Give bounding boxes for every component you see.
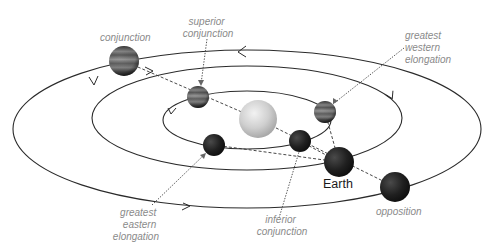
inner-planet-inferior-conjunction	[289, 130, 311, 152]
inner-planet-greatest-western-elongation	[314, 101, 336, 123]
planetary-configurations-diagram: conjunction superior conjunction greates…	[0, 0, 491, 243]
sun	[239, 100, 277, 138]
earth	[324, 147, 354, 177]
label-earth: Earth	[323, 177, 353, 191]
label-greatest-western-elongation: greatest western elongation	[405, 30, 452, 65]
label-superior-conjunction: superior conjunction	[183, 16, 234, 39]
label-conjunction: conjunction	[100, 32, 151, 43]
outer-planet-opposition	[380, 172, 410, 202]
label-inferior-conjunction: inferior conjunction	[257, 214, 308, 237]
inner-planet-greatest-eastern-elongation	[203, 134, 225, 156]
label-opposition: opposition	[376, 206, 422, 217]
inner-planet-superior-conjunction	[187, 86, 209, 108]
outer-planet-conjunction	[109, 46, 139, 76]
label-greatest-eastern-elongation: greatest eastern elongation	[113, 207, 160, 242]
